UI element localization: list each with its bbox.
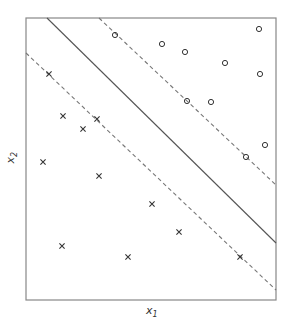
class-o-marker (257, 71, 262, 76)
plot-frame (26, 18, 276, 300)
class-x-marker (46, 71, 51, 76)
svm-margin-plot (0, 0, 290, 327)
class-x-marker (176, 229, 181, 234)
class-o-marker (222, 60, 227, 65)
class-x-marker (125, 254, 130, 259)
class-o-marker (243, 154, 248, 159)
margin-upper-line (99, 18, 276, 185)
class-o-marker (182, 49, 187, 54)
class-o-marker (256, 26, 261, 31)
class-o-marker (262, 142, 267, 147)
class-o-marker (159, 41, 164, 46)
x-axis-label: x1 (146, 304, 158, 319)
y-axis-label: x2 (4, 152, 19, 164)
class-o-marker (208, 99, 213, 104)
class-x-marker (80, 126, 85, 131)
margin-lower-line (26, 53, 276, 290)
class-x-marker (60, 113, 65, 118)
class-x-marker (149, 201, 154, 206)
class-x-marker (96, 173, 101, 178)
class-x-marker (40, 159, 45, 164)
class-x-marker (59, 243, 64, 248)
